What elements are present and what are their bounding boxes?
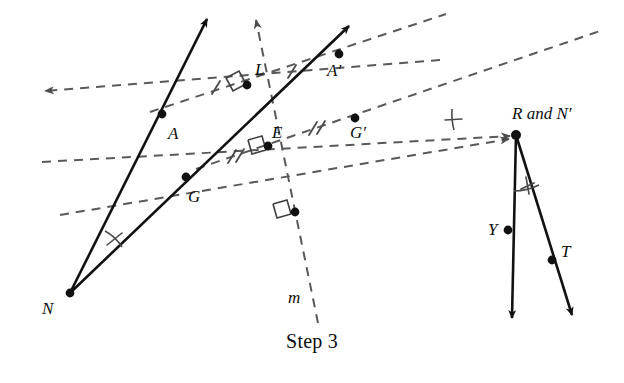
segment-G-to-Gprime (196, 31, 600, 169)
label-Y: Y (488, 221, 497, 238)
point-E (264, 142, 273, 151)
diagram-points (66, 50, 557, 298)
solid-rays (70, 19, 572, 318)
point-A (158, 110, 167, 119)
point-R-and-N-prime (511, 130, 521, 140)
ray-R-through-T (516, 135, 572, 315)
figure-caption: Step 3 (0, 330, 624, 353)
tick-angle-R (445, 119, 462, 120)
figure-canvas: A G N L E A′ G′ R and N′ Y T m Step 3 (0, 0, 624, 383)
label-N: N (42, 300, 53, 317)
label-R-and-N-prime: R and N′ (512, 105, 571, 122)
label-A: A (168, 125, 178, 142)
geometry-diagram (0, 0, 624, 383)
label-T: T (561, 243, 570, 260)
label-A-prime: A′ (327, 62, 341, 79)
label-L: L (255, 61, 264, 78)
point-T (548, 256, 557, 265)
ray-N-through-G (70, 26, 349, 293)
point-L (243, 81, 252, 90)
point-N (66, 289, 75, 298)
point-midpoint-N-Nprime (291, 208, 300, 217)
point-A-prime (335, 50, 344, 59)
point-Y (504, 226, 513, 235)
ray-R-through-Y (512, 135, 516, 318)
label-E: E (272, 124, 282, 141)
tick-E-Gprime-a (309, 122, 317, 135)
label-G-prime: G′ (350, 124, 366, 141)
ray-N-through-A (70, 19, 207, 293)
label-G: G (188, 188, 200, 205)
label-line-m: m (288, 289, 300, 306)
point-G (182, 173, 191, 182)
point-G-prime (351, 114, 360, 123)
congruence-tick-marks (212, 65, 534, 189)
tick-A-L (212, 81, 220, 94)
